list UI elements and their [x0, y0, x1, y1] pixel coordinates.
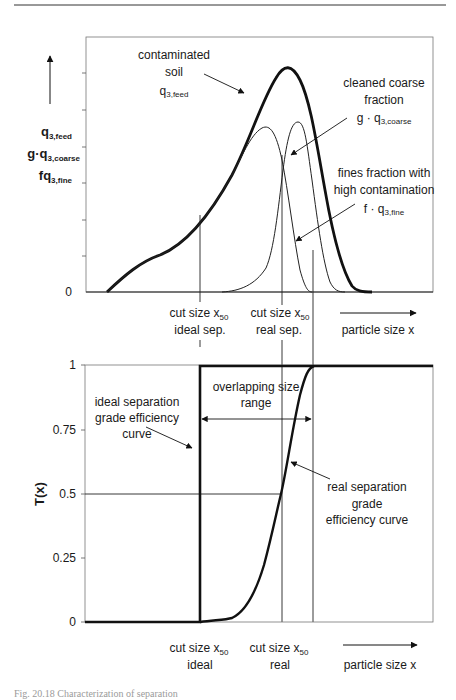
separation-figure: 0 q3,feed g·q3,coarse fq3,fine contamina…: [0, 0, 456, 700]
top-ylabel-coarse: g·q3,coarse: [27, 146, 80, 163]
annot-contaminated-symbol: q3,feed: [160, 84, 189, 99]
annot-contaminated-line2: soil: [165, 65, 183, 79]
top-chart: 0 q3,feed g·q3,coarse fq3,fine contamina…: [27, 37, 434, 622]
annot-overlap-line1: overlapping size: [213, 380, 300, 394]
top-xmark-ideal-line2: ideal sep.: [174, 323, 225, 337]
annot-ideal-line3: curve: [122, 427, 152, 441]
top-ylabel-feed: q3,feed: [41, 124, 72, 141]
bottom-y-tick-0.5: 0.5: [59, 487, 76, 501]
bottom-chart: 1 0.75 0.5 0.25 0 T(x) overlapping size …: [32, 358, 433, 672]
annot-overlap-line2: range: [241, 396, 272, 410]
annot-ideal-line2: grade efficiency: [95, 411, 179, 425]
annot-coarse-symbol: g · q3,coarse: [357, 111, 412, 126]
bottom-xmark-ideal-line1: cut size x50: [170, 641, 229, 657]
coarse-curve: [222, 122, 345, 292]
top-y-ticks: [82, 73, 86, 256]
annot-fines-line1: fines fraction with: [338, 166, 431, 180]
bottom-y-tick-0: 0: [69, 615, 76, 629]
bottom-ylabel: T(x): [32, 482, 47, 506]
annot-fines-line2: high contamination: [334, 183, 435, 197]
annot-real-line3: efficiency curve: [326, 513, 409, 527]
annot-ideal-line1: ideal separation: [95, 395, 180, 409]
top-ylabel-fine: fq3,fine: [39, 168, 73, 185]
top-y-tick-0: 0: [65, 285, 72, 299]
bottom-y-tick-0.75: 0.75: [53, 423, 77, 437]
figure-caption: Fig. 20.18 Characterization of separatio…: [14, 688, 178, 699]
annot-fines-arrow-icon: [296, 204, 355, 241]
bottom-xmark-real-line1: cut size x50: [250, 641, 309, 657]
annot-contaminated-arrow-icon: [204, 74, 244, 93]
annot-ideal-arrow-icon: [146, 427, 192, 448]
annot-real-line1: real separation: [327, 480, 406, 494]
bottom-y-ticks: [81, 365, 85, 622]
annot-real-line2: grade: [352, 497, 383, 511]
top-xmark-real-line2: real sep.: [256, 323, 302, 337]
top-xmark-ideal-line1: cut size x50: [170, 306, 229, 322]
bottom-xmark-ideal-line2: ideal: [187, 658, 212, 672]
bottom-y-tick-1: 1: [69, 358, 76, 372]
top-xmark-real-line1: cut size x50: [251, 306, 310, 322]
feed-curve: [107, 68, 372, 292]
annot-contaminated-line1: contaminated: [138, 48, 210, 62]
bottom-xmark-real-line2: real: [270, 658, 290, 672]
annot-fines-symbol: f · q3,fine: [364, 202, 405, 217]
annot-coarse-line1: cleaned coarse: [343, 76, 425, 90]
annot-coarse-line2: fraction: [364, 93, 403, 107]
bottom-y-tick-0.25: 0.25: [53, 551, 77, 565]
annot-real-arrow-icon: [291, 462, 330, 479]
bottom-xlabel: particle size x: [344, 658, 417, 672]
top-xlabel: particle size x: [342, 323, 415, 337]
